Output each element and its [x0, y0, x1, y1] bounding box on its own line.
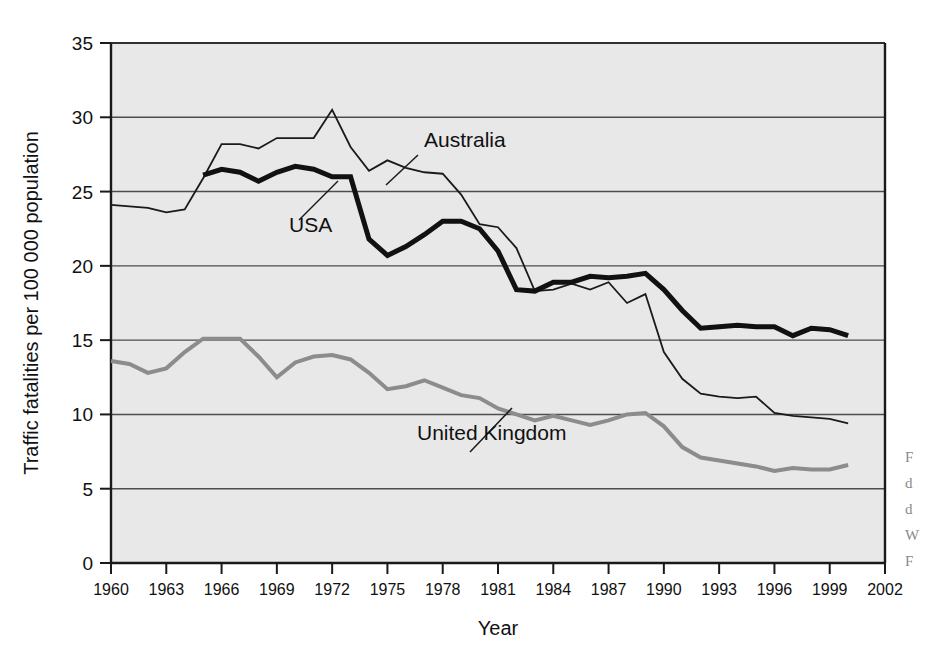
y-axis-title: Traffic fatalities per 100 000 populatio…: [20, 131, 42, 475]
y-tick-label: 5: [82, 479, 93, 500]
x-axis-tick-labels: 1960196319661969197219751978198119841987…: [93, 581, 903, 598]
x-tick-label: 1969: [259, 581, 295, 598]
x-tick-label: 1987: [591, 581, 627, 598]
y-tick-label: 0: [82, 553, 93, 574]
caption-line: F: [905, 548, 937, 574]
x-tick-label: 1966: [204, 581, 240, 598]
plot-area-background: [111, 43, 885, 563]
y-tick-label: 10: [72, 404, 93, 425]
x-tick-label: 1963: [148, 581, 184, 598]
x-tick-label: 1999: [812, 581, 848, 598]
y-tick-label: 30: [72, 107, 93, 128]
y-axis-tick-labels: 05101520253035: [72, 33, 93, 574]
annotation-usa: USA: [289, 213, 332, 236]
x-tick-label: 1990: [646, 581, 682, 598]
x-tick-label: 1978: [425, 581, 461, 598]
y-tick-label: 20: [72, 256, 93, 277]
figure-caption-sliver: FddWF: [905, 444, 937, 574]
x-axis-title: Year: [478, 617, 519, 639]
x-axis-ticks: [111, 563, 885, 574]
y-tick-label: 35: [72, 33, 93, 54]
line-chart: 05101520253035 1960196319661969197219751…: [0, 0, 937, 657]
caption-line: W: [905, 522, 937, 548]
annotation-australia: Australia: [424, 128, 506, 151]
x-tick-label: 1960: [93, 581, 129, 598]
x-tick-label: 1981: [480, 581, 516, 598]
x-tick-label: 1993: [701, 581, 737, 598]
caption-line: d: [905, 496, 937, 522]
y-tick-label: 15: [72, 330, 93, 351]
caption-line: F: [905, 444, 937, 470]
x-tick-label: 1975: [370, 581, 406, 598]
x-tick-label: 1972: [314, 581, 350, 598]
y-tick-label: 25: [72, 182, 93, 203]
annotation-united-kingdom: United Kingdom: [417, 421, 566, 444]
figure-container: 05101520253035 1960196319661969197219751…: [0, 0, 937, 657]
caption-line: d: [905, 470, 937, 496]
y-axis-ticks: [100, 43, 111, 563]
x-tick-label: 2002: [867, 581, 903, 598]
x-tick-label: 1984: [535, 581, 571, 598]
x-tick-label: 1996: [757, 581, 793, 598]
